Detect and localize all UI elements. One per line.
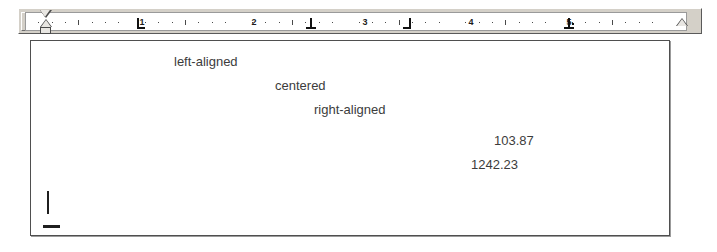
first-line-indent-fill <box>40 10 50 17</box>
ruler-eighth-dot <box>172 22 173 23</box>
ruler-track[interactable]: 12345 <box>25 12 687 31</box>
ruler-eighth-dot <box>319 22 320 23</box>
right-indent-fill <box>677 19 687 26</box>
ruler-eighth-dot <box>439 22 440 23</box>
ruler-half-inch-tick <box>185 20 186 25</box>
document-line-decimal-4[interactable]: 1242.23 <box>471 157 518 173</box>
ruler-half-inch-tick <box>292 20 293 25</box>
left-tab-stop-marker[interactable] <box>137 18 145 30</box>
left-indent-box-icon[interactable] <box>40 27 51 34</box>
center-tab-stop-marker[interactable] <box>306 18 316 30</box>
ruler-eighth-dot <box>492 22 493 23</box>
ruler-half-inch-tick <box>399 20 400 25</box>
ruler-eighth-dot <box>279 22 280 23</box>
document-line-left[interactable]: left-aligned <box>174 54 238 70</box>
ruler-eighth-dot <box>585 22 586 23</box>
end-of-document-mark <box>43 225 60 228</box>
ruler-number-4: 4 <box>468 15 473 29</box>
ruler-eighth-dot <box>212 22 213 23</box>
horizontal-ruler[interactable]: 12345 <box>18 8 702 34</box>
document-line-center[interactable]: centered <box>275 78 326 94</box>
document-line-decimal-3[interactable]: 103.87 <box>494 133 534 149</box>
ruler-eighth-dot <box>599 22 600 23</box>
ruler-eighth-dot <box>372 22 373 23</box>
ruler-eighth-dot <box>145 22 146 23</box>
ruler-eighth-dot <box>652 22 653 23</box>
ruler-eighth-dot <box>225 22 226 23</box>
ruler-half-inch-tick <box>612 20 613 25</box>
ruler-eighth-dot <box>265 22 266 23</box>
ruler-eighth-dot <box>412 22 413 23</box>
right-tab-stop-marker[interactable] <box>403 18 411 30</box>
ruler-eighth-dot <box>385 22 386 23</box>
ruler-number-3: 3 <box>362 15 367 29</box>
ruler-half-inch-tick <box>78 20 79 25</box>
ruler-eighth-dot <box>545 22 546 23</box>
ruler-eighth-dot <box>158 22 159 23</box>
right-indent-marker[interactable] <box>676 17 689 31</box>
ruler-half-inch-tick <box>505 20 506 25</box>
document-page[interactable]: left-alignedcenteredright-aligned103.871… <box>30 40 670 236</box>
ruler-eighth-dot <box>479 22 480 23</box>
ruler-eighth-dot <box>118 22 119 23</box>
ruler-number-2: 2 <box>251 15 256 29</box>
ruler-eighth-dot <box>519 22 520 23</box>
ruler-eighth-dot <box>532 22 533 23</box>
left-indent-markers[interactable] <box>39 10 52 34</box>
ruler-eighth-dot <box>105 22 106 23</box>
ruler-eighth-dot <box>465 22 466 23</box>
ruler-eighth-dot <box>359 22 360 23</box>
document-line-right[interactable]: right-aligned <box>314 102 386 118</box>
ruler-eighth-dot <box>639 22 640 23</box>
ruler-eighth-dot <box>625 22 626 23</box>
document-editor-window: 12345 left-alignedcenteredright-aligned1… <box>0 0 717 252</box>
text-caret <box>47 191 49 214</box>
ruler-eighth-dot <box>198 22 199 23</box>
ruler-eighth-dot <box>92 22 93 23</box>
ruler-eighth-dot <box>425 22 426 23</box>
ruler-eighth-dot <box>332 22 333 23</box>
hanging-indent-fill <box>41 20 51 27</box>
decimal-tab-stop-marker[interactable] <box>564 18 575 30</box>
ruler-eighth-dot <box>65 22 66 23</box>
